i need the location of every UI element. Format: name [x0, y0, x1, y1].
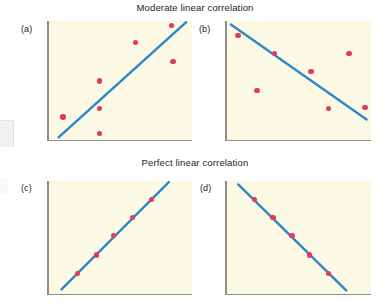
perfect-correlation-title: Perfect linear correlation	[0, 157, 390, 168]
panel-label-c: (c)	[21, 183, 32, 193]
scan-edge-artifact-secondary	[0, 178, 8, 194]
scatter-plot-a	[47, 21, 192, 141]
scatter-plot-d	[225, 181, 371, 295]
plot-d-y-axis	[225, 181, 227, 295]
data-point	[346, 51, 351, 56]
trend-line	[59, 22, 187, 137]
panel-label-a: (a)	[21, 24, 32, 34]
plot-a-x-axis	[47, 140, 192, 142]
data-point	[235, 33, 240, 38]
scatter-plot-c	[47, 181, 192, 295]
correlation-figure: Moderate linear correlation (a) (b) Perf…	[0, 0, 390, 304]
plot-d-canvas	[225, 181, 371, 295]
data-point	[308, 69, 313, 74]
data-point	[97, 78, 102, 83]
scatter-plot-b	[225, 21, 371, 141]
data-point	[75, 271, 80, 276]
data-point	[149, 197, 154, 202]
panel-label-d: (d)	[200, 183, 211, 193]
data-point	[60, 114, 65, 119]
trend-line	[231, 25, 367, 120]
panel-label-b: (b)	[199, 24, 210, 34]
data-point	[270, 215, 275, 220]
scan-edge-artifact	[0, 120, 14, 147]
data-point	[252, 197, 257, 202]
plot-c-y-axis	[47, 181, 49, 295]
plot-a-canvas	[47, 21, 192, 141]
plot-d-x-axis	[225, 294, 371, 296]
plot-c-x-axis	[47, 294, 192, 296]
moderate-correlation-title: Moderate linear correlation	[0, 2, 390, 13]
plot-a-y-axis	[47, 21, 49, 141]
data-point	[362, 105, 367, 110]
data-point	[94, 252, 99, 257]
plot-b-x-axis	[225, 140, 371, 142]
data-point	[254, 88, 259, 93]
plot-b-canvas	[225, 21, 371, 141]
plot-b-y-axis	[225, 21, 227, 141]
plot-c-canvas	[47, 181, 192, 295]
